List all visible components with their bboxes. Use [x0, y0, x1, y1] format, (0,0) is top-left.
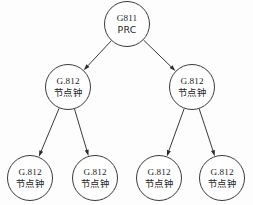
edge-root-mid-left-line	[88, 41, 111, 66]
node-leaf-1-label-line2: 节点钟	[16, 178, 44, 189]
edge-mid-right-leaf-4-line	[199, 109, 213, 150]
edge-mid-left-leaf-2	[75, 109, 89, 156]
node-leaf-4[interactable]: G.812节点钟	[200, 156, 245, 201]
edge-root-mid-right	[144, 40, 176, 71]
node-leaf-1-label-line1: G.812	[18, 167, 42, 177]
edge-root-mid-right-line	[144, 40, 172, 67]
edge-mid-left-leaf-1	[39, 108, 59, 157]
node-root-label-line2: PRC	[118, 24, 137, 35]
node-leaf-4-label-line2: 节点钟	[208, 178, 236, 189]
clock-hierarchy-diagram: G811PRCG.812节点钟G.812节点钟G.812节点钟G.812节点钟G…	[0, 0, 253, 205]
node-mid-left-label-line2: 节点钟	[54, 87, 82, 98]
node-leaf-3[interactable]: G.812节点钟	[137, 156, 182, 201]
edge-mid-left-leaf-2-arrowhead-icon	[85, 149, 89, 156]
nodes-layer: G811PRCG.812节点钟G.812节点钟G.812节点钟G.812节点钟G…	[8, 2, 245, 201]
node-mid-right[interactable]: G.812节点钟	[170, 65, 215, 110]
node-leaf-4-label-line1: G.812	[210, 167, 234, 177]
node-mid-left[interactable]: G.812节点钟	[46, 65, 91, 110]
node-leaf-3-label-line2: 节点钟	[145, 178, 173, 189]
node-root[interactable]: G811PRC	[105, 2, 150, 47]
edge-mid-right-leaf-3-line	[169, 109, 184, 151]
node-mid-right-label-line2: 节点钟	[178, 87, 206, 98]
edge-mid-right-leaf-3-arrowhead-icon	[167, 150, 171, 157]
edge-mid-left-leaf-1-line	[41, 108, 59, 151]
node-root-label-line1: G811	[117, 13, 138, 23]
node-leaf-2-label-line2: 节点钟	[81, 178, 109, 189]
edge-mid-right-leaf-4-arrowhead-icon	[211, 150, 215, 157]
node-leaf-1[interactable]: G.812节点钟	[8, 156, 53, 201]
edge-mid-right-leaf-4	[199, 109, 215, 156]
diagram-canvas: G811PRCG.812节点钟G.812节点钟G.812节点钟G.812节点钟G…	[0, 0, 253, 205]
edge-mid-left-leaf-2-line	[75, 109, 87, 150]
node-leaf-2-label-line1: G.812	[83, 167, 107, 177]
node-leaf-2[interactable]: G.812节点钟	[73, 156, 118, 201]
node-mid-left-label-line1: G.812	[56, 76, 80, 86]
node-leaf-3-label-line1: G.812	[147, 167, 171, 177]
edge-root-mid-left	[84, 41, 112, 70]
node-mid-right-label-line1: G.812	[180, 76, 204, 86]
edge-mid-right-leaf-3	[167, 109, 184, 157]
edge-mid-left-leaf-1-arrowhead-icon	[39, 150, 43, 157]
